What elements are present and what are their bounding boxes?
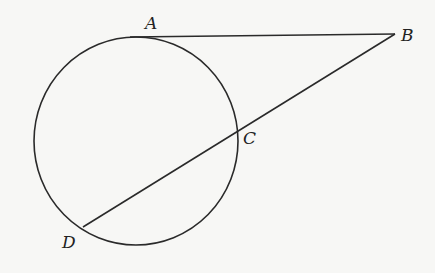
point-label-a: A: [143, 13, 157, 33]
circle: [34, 37, 238, 245]
point-label-d: D: [61, 232, 76, 252]
geometry-diagram: A B C D: [0, 0, 435, 273]
secant-segment-bd: [83, 34, 395, 227]
tangent-segment-ab: [130, 34, 395, 37]
point-label-c: C: [243, 128, 256, 148]
point-label-b: B: [400, 25, 414, 45]
